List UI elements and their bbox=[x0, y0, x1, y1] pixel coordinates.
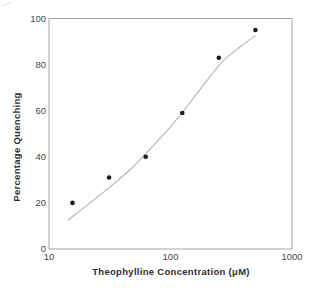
data-point bbox=[217, 55, 222, 60]
data-point bbox=[143, 155, 148, 160]
quenching-calibration-figure: 020406080100101001000 Percentage Quenchi… bbox=[0, 0, 316, 294]
y-tick-label: 60 bbox=[35, 105, 46, 116]
data-point bbox=[107, 175, 112, 180]
chart-canvas: 020406080100101001000 bbox=[0, 0, 316, 294]
plot-frame bbox=[49, 19, 292, 250]
fit-curve bbox=[68, 36, 256, 220]
data-point bbox=[253, 28, 258, 33]
x-tick-label: 100 bbox=[163, 251, 179, 262]
data-point bbox=[70, 201, 75, 206]
scan-artifact bbox=[4, 3, 12, 6]
y-tick-label: 20 bbox=[35, 197, 46, 208]
y-axis-title: Percentage Quenching bbox=[11, 92, 22, 201]
x-tick-label: 10 bbox=[44, 251, 55, 262]
y-tick-label: 100 bbox=[30, 13, 46, 24]
x-axis-title: Theophylline Concentration (μM) bbox=[92, 266, 250, 277]
data-point bbox=[180, 111, 185, 116]
y-tick-label: 40 bbox=[35, 151, 46, 162]
x-tick-label: 1000 bbox=[281, 251, 302, 262]
y-tick-label: 80 bbox=[35, 59, 46, 70]
